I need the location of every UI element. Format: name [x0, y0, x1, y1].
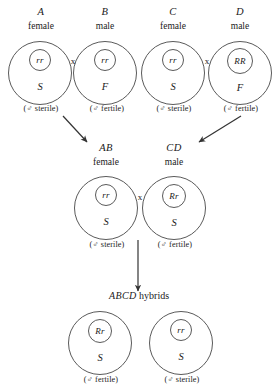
nucleus-hybrid-cd: Rr [162, 184, 186, 208]
nucleus-parent-d: RR [227, 48, 253, 74]
caption-text: sterile) [174, 375, 200, 384]
caption-offspring-fertile: (♂ fertile) [84, 376, 118, 385]
caption-hybrid-cd: (♂ fertile) [158, 241, 192, 250]
caption-parent-c: (♂ sterile) [157, 105, 192, 114]
hybrids-heading-word: hybrids [137, 290, 170, 301]
caption-text: fertile) [233, 104, 258, 113]
nucleus-hybrid-ab: rr [95, 184, 117, 206]
parent-sex-d: male [231, 22, 249, 32]
cytoplasm-hybrid-ab: S [103, 216, 108, 227]
cross-symbol-cd: x [205, 57, 210, 66]
caption-text: sterile) [99, 240, 125, 249]
parent-sex-b: male [96, 22, 114, 32]
cross-symbol-ab: x [71, 57, 76, 66]
cell-offspring-sterile: rr S [149, 311, 213, 375]
f1-label-ab: AB [99, 142, 113, 153]
caption-text: fertile) [99, 104, 124, 113]
parent-label-d: D [236, 6, 244, 17]
cross-symbol-f1: x [138, 193, 143, 202]
hybrids-heading-code: ABCD [109, 290, 137, 301]
cell-hybrid-ab: rr S [74, 176, 138, 240]
caption-text: fertile) [167, 240, 192, 249]
f1-sex-cd: male [165, 158, 183, 168]
pedigree-diagram: A female B male C female D male rr S rr … [0, 0, 275, 388]
cell-parent-d: RR F [208, 41, 272, 105]
arrow-ab [63, 116, 87, 142]
caption-offspring-sterile: (♂ sterile) [165, 376, 200, 385]
caption-text: sterile) [166, 104, 192, 113]
cell-parent-a: rr S [8, 41, 72, 105]
cell-offspring-fertile: Rr S [68, 311, 132, 375]
caption-hybrid-ab: (♂ sterile) [90, 241, 125, 250]
parent-label-b: B [102, 6, 109, 17]
cell-hybrid-cd: Rr S [142, 176, 206, 240]
nucleus-parent-a: rr [29, 49, 51, 71]
cytoplasm-parent-b: F [102, 81, 108, 92]
nucleus-parent-c: rr [162, 49, 184, 71]
cytoplasm-parent-d: F [237, 82, 243, 93]
nucleus-offspring-sterile: rr [170, 319, 192, 341]
cytoplasm-parent-a: S [37, 81, 42, 92]
cytoplasm-offspring-sterile: S [178, 351, 183, 362]
f1-label-cd: CD [166, 142, 181, 153]
cytoplasm-hybrid-cd: S [171, 217, 176, 228]
f1-sex-ab: female [93, 158, 119, 168]
caption-text: fertile) [93, 375, 118, 384]
parent-label-c: C [169, 6, 176, 17]
caption-parent-d: (♂ fertile) [224, 105, 258, 114]
parent-sex-a: female [28, 22, 54, 32]
cytoplasm-parent-c: S [170, 81, 175, 92]
nucleus-offspring-fertile: Rr [88, 319, 112, 343]
caption-parent-a: (♂ sterile) [24, 105, 59, 114]
parent-sex-c: female [160, 22, 186, 32]
nucleus-parent-b: rr [94, 49, 116, 71]
cell-parent-c: rr S [141, 41, 205, 105]
cytoplasm-offspring-fertile: S [97, 352, 102, 363]
parent-label-a: A [38, 6, 45, 17]
arrow-cd [199, 116, 241, 142]
hybrids-heading: ABCD hybrids [109, 291, 169, 302]
caption-parent-b: (♂ fertile) [90, 105, 124, 114]
caption-text: sterile) [33, 104, 59, 113]
cell-parent-b: rr F [73, 41, 137, 105]
